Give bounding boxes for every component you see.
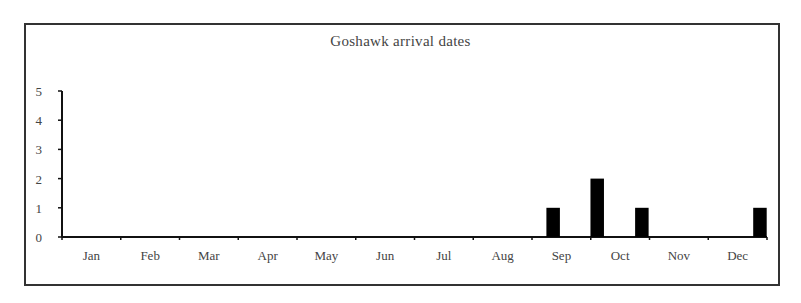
x-tick-label-nov: Nov	[668, 248, 691, 263]
bar-sep	[546, 208, 560, 237]
y-tick-label: 2	[36, 172, 43, 187]
x-tick-label-aug: Aug	[491, 248, 514, 263]
y-tick-label: 5	[36, 84, 43, 99]
y-tick-label: 3	[36, 142, 43, 157]
bar-dec	[753, 208, 767, 237]
x-tick-label-jul: Jul	[436, 248, 452, 263]
x-tick-label-feb: Feb	[140, 248, 160, 263]
x-tick-label-apr: Apr	[258, 248, 279, 263]
x-tick-label-dec: Dec	[727, 248, 748, 263]
y-tick-label: 0	[36, 230, 43, 245]
bar-oct	[590, 179, 604, 237]
x-tick-label-jan: Jan	[83, 248, 101, 263]
y-axis: 012345	[36, 84, 63, 245]
x-tick-label-oct: Oct	[611, 248, 630, 263]
y-tick-label: 1	[36, 201, 43, 216]
x-axis: JanFebMarAprMayJunJulAugSepOctNovDec	[62, 237, 767, 263]
bar-oct	[635, 208, 649, 237]
x-tick-label-sep: Sep	[552, 248, 572, 263]
x-tick-label-jun: Jun	[376, 248, 395, 263]
plot-area: 012345 JanFebMarAprMayJunJulAugSepOctNov…	[0, 0, 801, 303]
y-tick-label: 4	[36, 113, 43, 128]
x-tick-label-may: May	[314, 248, 338, 263]
x-tick-label-mar: Mar	[198, 248, 220, 263]
bars	[546, 179, 766, 237]
